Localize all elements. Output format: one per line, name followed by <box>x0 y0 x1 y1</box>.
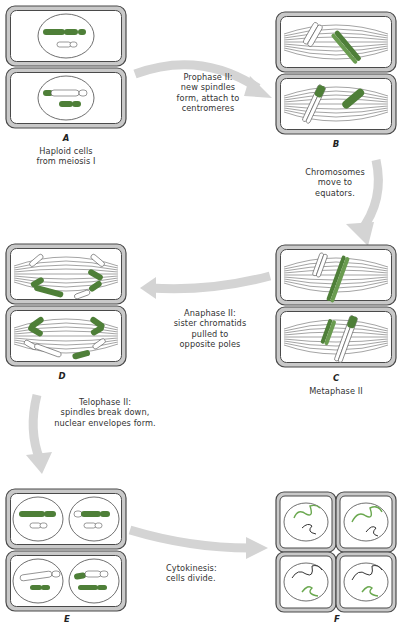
meiosis-ii-diagram: A B C D E F Haploid cells from meiosis I… <box>0 0 398 629</box>
arrow-e-to-f <box>130 530 268 559</box>
label-line: Telophase II: <box>50 397 160 407</box>
panel-letter-e: E <box>57 614 77 624</box>
label-line: cells divide. <box>166 573 246 583</box>
label-anaphase-ii: Anaphase II: sister chromatids pulled to… <box>160 308 260 350</box>
panel-d-anaphase-ii <box>6 244 126 366</box>
panel-b-prophase-ii <box>276 12 396 134</box>
label-line: move to <box>290 177 380 187</box>
label-line: sister chromatids <box>160 318 260 328</box>
caption-c: Metaphase II <box>286 386 386 396</box>
arrow-d-to-e <box>26 395 52 474</box>
daughter-cell-4 <box>336 552 396 612</box>
panel-letter-f: F <box>327 614 347 624</box>
label-line: opposite poles <box>160 339 260 349</box>
label-line: spindles break down, <box>50 407 160 417</box>
panel-e-telophase-ii <box>6 489 126 611</box>
label-line: nuclear envelopes form. <box>50 418 160 428</box>
label-line: new spindles <box>158 82 258 92</box>
label-line: Cytokinesis: <box>166 563 246 573</box>
label-cytokinesis: Cytokinesis: cells divide. <box>166 563 246 584</box>
label-line: form, attach to <box>158 93 258 103</box>
label-line: Anaphase II: <box>160 308 260 318</box>
panel-letter-b: B <box>326 139 346 149</box>
daughter-cell-1 <box>276 492 336 552</box>
caption-a-line-1: Haploid cells <box>16 146 116 156</box>
label-telophase-ii: Telophase II: spindles break down, nucle… <box>50 397 160 428</box>
label-line: Prophase II: <box>158 72 258 82</box>
panel-a-haploid-cells <box>6 6 126 128</box>
label-line: centromeres <box>158 103 258 113</box>
panel-f-cytokinesis <box>276 492 396 612</box>
panel-letter-c: C <box>326 373 346 383</box>
panel-letter-a: A <box>56 133 76 143</box>
label-line: pulled to <box>160 329 260 339</box>
caption-a-line-2: from meiosis I <box>16 156 116 166</box>
label-line: equators. <box>290 188 380 198</box>
arrow-c-to-d <box>140 276 270 299</box>
label-move-to-equators: Chromosomes move to equators. <box>290 167 380 198</box>
caption-c-line-1: Metaphase II <box>286 386 386 396</box>
label-line: Chromosomes <box>290 167 380 177</box>
caption-a: Haploid cells from meiosis I <box>16 146 116 167</box>
daughter-cell-2 <box>336 492 396 552</box>
panel-c-metaphase-ii <box>276 245 396 367</box>
panel-letter-d: D <box>52 371 72 381</box>
daughter-cell-3 <box>276 552 336 612</box>
label-prophase-ii: Prophase II: new spindles form, attach t… <box>158 72 258 114</box>
